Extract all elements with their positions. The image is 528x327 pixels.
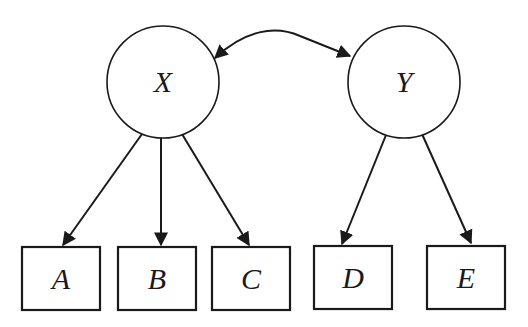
- node-label-x: X: [153, 65, 174, 98]
- edge-x-c: [182, 134, 249, 245]
- observed-node-a: A: [22, 247, 100, 310]
- covariance-arrow-x-y: [215, 31, 350, 58]
- node-label-e: E: [456, 261, 475, 294]
- edge-y-e: [422, 134, 471, 243]
- edge-x-a: [63, 134, 142, 245]
- observed-node-c: C: [212, 247, 290, 310]
- sem-diagram: X Y A B C D E: [0, 0, 528, 327]
- node-label-a: A: [50, 262, 71, 295]
- latent-node-x: X: [107, 26, 219, 138]
- latent-node-y: Y: [348, 26, 460, 138]
- node-label-c: C: [241, 262, 262, 295]
- observed-node-b: B: [118, 247, 196, 310]
- observed-node-e: E: [427, 246, 505, 309]
- observed-node-d: D: [314, 246, 392, 309]
- node-label-d: D: [341, 261, 364, 294]
- edge-y-d: [342, 135, 386, 244]
- node-label-b: B: [148, 262, 166, 295]
